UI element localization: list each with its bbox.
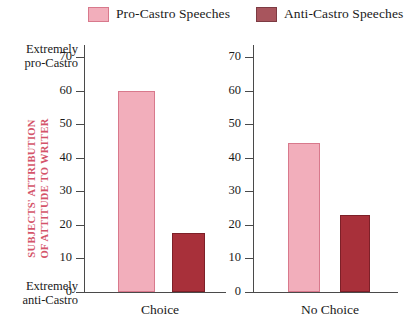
y-tick-mark-0-20	[76, 225, 84, 226]
y-tick-label-1-50: 50	[217, 116, 241, 131]
y-tick-mark-1-70	[245, 57, 253, 58]
y-tick-mark-1-20	[245, 225, 253, 226]
x-axis-category-label-1: No Choice	[270, 302, 390, 318]
bar-no-choice-pro	[288, 143, 320, 292]
y-tick-label-0-60: 60	[48, 83, 72, 98]
x-axis-line-panel-1	[253, 292, 398, 293]
y-tick-mark-1-10	[245, 258, 253, 259]
y-tick-mark-0-50	[76, 124, 84, 125]
y-tick-label-1-70: 70	[217, 49, 241, 64]
y-tick-label-0-10: 10	[48, 250, 72, 265]
y-axis-title: SUBJECTS' ATTRIBUTION OF ATTITUDE TO WRI…	[26, 94, 51, 284]
y-tick-label-1-60: 60	[217, 83, 241, 98]
bar-no-choice-anti	[340, 215, 370, 292]
y-tick-label-0-30: 30	[48, 183, 72, 198]
y-tick-mark-0-70	[76, 57, 84, 58]
y-tick-mark-1-40	[245, 158, 253, 159]
y-tick-mark-0-0	[76, 292, 84, 293]
y-tick-mark-1-0	[245, 292, 253, 293]
y-tick-mark-1-60	[245, 91, 253, 92]
legend-swatch-anti-castro-icon	[256, 7, 277, 22]
y-tick-mark-0-60	[76, 91, 84, 92]
y-tick-mark-1-50	[245, 124, 253, 125]
chart-legend: Pro-Castro Speeches Anti-Castro Speeches	[0, 6, 408, 28]
y-tick-mark-0-10	[76, 258, 84, 259]
legend-swatch-pro-castro-icon	[88, 7, 109, 22]
y-tick-label-1-20: 20	[217, 217, 241, 232]
chart-plot-area: SUBJECTS' ATTRIBUTION OF ATTITUDE TO WRI…	[0, 28, 408, 331]
legend-label-anti-castro: Anti-Castro Speeches	[284, 6, 403, 22]
legend-label-pro-castro: Pro-Castro Speeches	[116, 6, 230, 22]
y-tick-label-0-70: 70	[48, 49, 72, 64]
y-tick-label-0-20: 20	[48, 217, 72, 232]
bar-choice-anti	[172, 233, 205, 292]
y-tick-label-1-40: 40	[217, 150, 241, 165]
legend-item-anti-castro: Anti-Castro Speeches	[256, 6, 403, 22]
y-tick-mark-0-30	[76, 191, 84, 192]
y-axis-line-panel-0	[84, 45, 85, 293]
y-tick-label-0-40: 40	[48, 150, 72, 165]
y-tick-label-1-10: 10	[217, 250, 241, 265]
y-tick-mark-1-30	[245, 191, 253, 192]
y-tick-label-1-0: 0	[217, 284, 241, 299]
y-axis-title-line1: SUBJECTS' ATTRIBUTION	[26, 119, 37, 257]
y-tick-label-0-50: 50	[48, 116, 72, 131]
y-tick-label-0-0: 0	[48, 284, 72, 299]
x-axis-category-label-0: Choice	[100, 302, 220, 318]
x-axis-line-panel-0	[84, 292, 226, 293]
bar-choice-pro	[118, 91, 155, 292]
y-tick-mark-0-40	[76, 158, 84, 159]
legend-item-pro-castro: Pro-Castro Speeches	[88, 6, 230, 22]
y-axis-line-panel-1	[253, 45, 254, 293]
y-tick-label-1-30: 30	[217, 183, 241, 198]
